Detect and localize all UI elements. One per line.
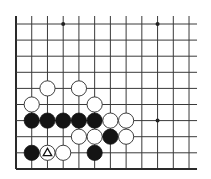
white-stone (103, 113, 118, 128)
black-stone-icon (71, 113, 86, 128)
white-stone-icon (87, 97, 102, 112)
white-stone-icon (71, 129, 86, 144)
black-stone (24, 145, 39, 160)
white-stone-icon (87, 129, 102, 144)
white-stone-icon (119, 129, 134, 144)
white-stone (71, 81, 86, 96)
go-board-diagram (0, 0, 211, 179)
white-stone-icon (119, 113, 134, 128)
black-stone-icon (56, 113, 71, 128)
white-stone-icon (103, 113, 118, 128)
black-stone-icon (87, 145, 102, 160)
star-point-icon (156, 119, 160, 123)
black-stone (56, 113, 71, 128)
black-stone-icon (103, 129, 118, 144)
white-stone (119, 113, 134, 128)
black-stone-icon (24, 113, 39, 128)
black-stone (24, 113, 39, 128)
white-stone-icon (40, 81, 55, 96)
black-stone (87, 113, 102, 128)
star-point-icon (61, 22, 65, 26)
black-stone (87, 145, 102, 160)
black-stone-icon (87, 113, 102, 128)
white-stone (24, 97, 39, 112)
black-stone-icon (40, 113, 55, 128)
white-stone (71, 129, 86, 144)
white-stone (40, 81, 55, 96)
black-stone (103, 129, 118, 144)
go-board (0, 0, 211, 179)
white-stone-icon (71, 81, 86, 96)
white-stone-icon (56, 145, 71, 160)
white-stone (40, 145, 55, 160)
white-stone (56, 145, 71, 160)
black-stone-icon (24, 145, 39, 160)
white-stone-icon (24, 97, 39, 112)
white-stone (119, 129, 134, 144)
star-point-icon (156, 22, 160, 26)
black-stone (71, 113, 86, 128)
white-stone (87, 129, 102, 144)
white-stone (87, 97, 102, 112)
black-stone (40, 113, 55, 128)
